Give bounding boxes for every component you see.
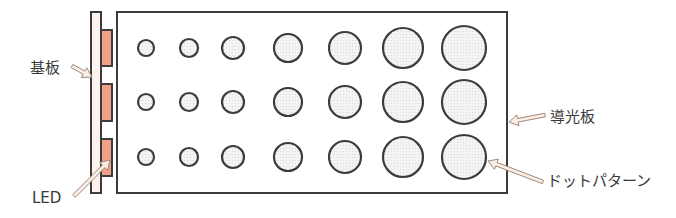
dot-r1-c7 xyxy=(442,26,486,70)
dot-pattern-label: ドットパターン xyxy=(547,174,651,189)
substrate-label: 基板 xyxy=(30,61,60,76)
dot-r3-c5 xyxy=(329,141,361,173)
led-light-guide-diagram: 基板 LED 導光板 ドットパターン xyxy=(0,0,676,218)
led-label: LED xyxy=(32,191,61,206)
dot-r2-c7 xyxy=(442,80,486,124)
led-1 xyxy=(101,30,112,66)
substrate-board xyxy=(91,12,101,193)
dot-r1-c2 xyxy=(180,39,198,57)
dot-r1-c3 xyxy=(222,37,244,59)
dot-r1-c5 xyxy=(329,32,361,64)
dot-r3-c6 xyxy=(383,137,423,177)
dot-r2-c1 xyxy=(138,94,154,110)
dot-r2-c6 xyxy=(383,82,423,122)
dot-r1-c4 xyxy=(274,34,302,62)
light-guide-arrow-icon xyxy=(509,113,545,126)
dot-r3-c2 xyxy=(180,148,198,166)
dot-r3-c7 xyxy=(442,135,486,179)
light-guide-label: 導光板 xyxy=(550,110,595,125)
led-2 xyxy=(101,84,112,121)
led-group xyxy=(101,30,112,176)
dot-r3-c3 xyxy=(222,146,244,168)
dot-r2-c5 xyxy=(329,86,361,118)
dot-r2-c2 xyxy=(180,93,198,111)
substrate-arrow-icon xyxy=(71,64,92,77)
dot-r2-c3 xyxy=(222,91,244,113)
dot-r3-c1 xyxy=(138,149,154,165)
substrate-rect xyxy=(91,12,101,193)
dot-r3-c4 xyxy=(274,143,302,171)
dot-r1-c6 xyxy=(383,28,423,68)
dot-r1-c1 xyxy=(138,40,154,56)
dot-r2-c4 xyxy=(274,88,302,116)
